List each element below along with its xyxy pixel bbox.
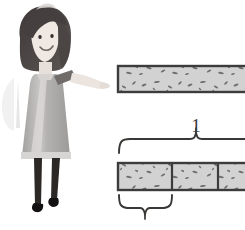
whole-brace xyxy=(119,128,245,153)
partitioned-bar xyxy=(118,163,245,190)
partitioned-bar-body xyxy=(118,163,245,190)
dress-hem xyxy=(21,152,71,159)
whole-bar xyxy=(118,66,245,92)
unit-fraction-brace xyxy=(119,195,172,219)
eye-right xyxy=(50,34,53,38)
whole-bar-body xyxy=(118,66,245,92)
pointing-hand xyxy=(100,82,110,88)
illustration-canvas: 1 xyxy=(0,0,245,230)
cropped-background-shape xyxy=(2,78,20,131)
neck xyxy=(39,62,52,76)
eye-left xyxy=(38,35,41,39)
shoe-right xyxy=(48,198,58,207)
girl-pointing xyxy=(20,4,110,213)
leg-right xyxy=(51,158,60,200)
leg-left xyxy=(34,158,42,205)
scene-svg xyxy=(0,0,245,230)
whole-label: 1 xyxy=(184,116,208,135)
dress-collar xyxy=(37,74,54,80)
shoe-left xyxy=(32,203,43,212)
